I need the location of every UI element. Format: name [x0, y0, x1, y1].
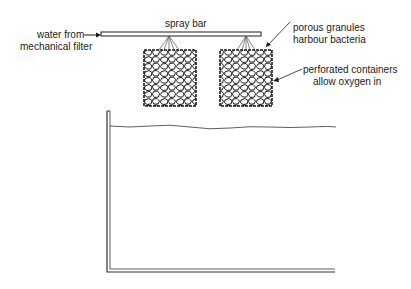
water-inlet-label-line2: mechanical filter [20, 41, 92, 52]
water-inlet-label-line1: water from [37, 29, 84, 40]
left-filter-container [144, 50, 196, 106]
granules-label-line1: porous granules [293, 22, 365, 33]
right-filter-container [220, 50, 272, 106]
spray-bar [101, 32, 261, 36]
spray-jets-right [237, 36, 255, 50]
containers-label-line2: allow oxygen in [313, 76, 381, 87]
containers-pointer [277, 69, 302, 80]
inlet-arrow [84, 33, 101, 38]
granules-pointer [268, 22, 290, 45]
aquarium-tank [107, 111, 335, 272]
containers-label-line1: perforated containers [303, 64, 398, 75]
spray-jets-left [159, 36, 179, 50]
spray-bar-label: spray bar [165, 18, 207, 29]
water-surface [110, 125, 336, 129]
granules-label-line2: harbour bacteria [293, 34, 366, 45]
